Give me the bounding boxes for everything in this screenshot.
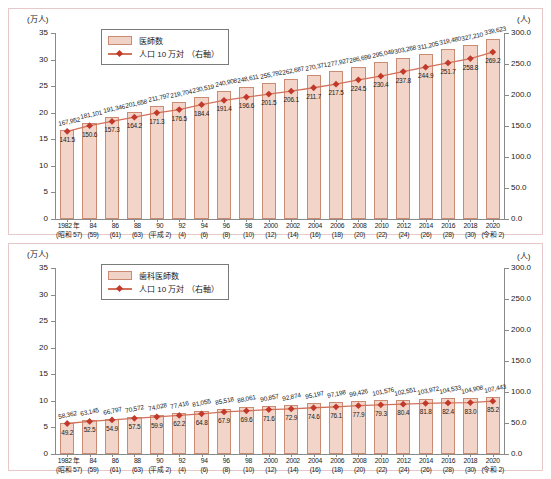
rate-value-label: 237.8 <box>396 77 411 84</box>
rate-value-label: 244.9 <box>418 72 433 79</box>
bar-slot[interactable]: 92,87472.9 <box>280 268 302 454</box>
bar[interactable]: 66,79754.9 <box>105 419 119 454</box>
bar-slot[interactable]: 85,51867.9 <box>213 268 235 454</box>
bar-slot[interactable]: 240,908191.4 <box>213 33 235 219</box>
bar[interactable]: 85,51867.9 <box>217 409 231 454</box>
bar-slot[interactable]: 230,519184.4 <box>190 33 212 219</box>
bar[interactable]: 211,797171.3 <box>150 106 164 219</box>
bar[interactable]: 311,205244.9 <box>419 54 433 219</box>
left-axis-tick-label: 30 <box>24 291 48 299</box>
bar-slot[interactable]: 311,205244.9 <box>415 33 437 219</box>
bar-slot[interactable]: 167,952141.5 <box>56 33 78 219</box>
bar[interactable]: 230,519184.4 <box>194 97 208 220</box>
bar-slot[interactable]: 277,927217.5 <box>325 33 347 219</box>
bar-slot[interactable]: 327,210258.8 <box>459 33 481 219</box>
bar[interactable]: 103,97281.8 <box>419 399 433 454</box>
bar-slot[interactable]: 97,19876.1 <box>325 268 347 454</box>
bar[interactable]: 339,623269.2 <box>486 39 500 219</box>
bar-slot[interactable]: 248,611196.6 <box>235 33 257 219</box>
x-axis-label: 2014(26) <box>415 221 437 239</box>
bar[interactable]: 70,57257.5 <box>127 417 141 455</box>
bar[interactable]: 191,346157.3 <box>105 117 119 219</box>
bar-slot[interactable]: 219,704176.5 <box>168 33 190 219</box>
bar-slot[interactable]: 70,57257.5 <box>123 268 145 454</box>
bar[interactable]: 107,44385.2 <box>486 397 500 454</box>
bar-slot[interactable]: 102,55180.4 <box>392 268 414 454</box>
bar[interactable]: 240,908191.4 <box>217 91 231 219</box>
bar[interactable]: 77,41662.2 <box>172 413 186 454</box>
bar[interactable]: 95,19774.6 <box>307 403 321 454</box>
bar[interactable]: 63,14552.5 <box>82 420 96 454</box>
bar[interactable]: 181,101150.6 <box>82 123 96 219</box>
bar-value-label: 167,952 <box>58 115 81 126</box>
bar-slot[interactable]: 270,371211.7 <box>302 33 324 219</box>
bar[interactable]: 81,05564.8 <box>194 411 208 454</box>
bar-slot[interactable]: 99,42677.9 <box>347 268 369 454</box>
bar[interactable]: 255,792201.5 <box>262 83 276 219</box>
bar[interactable]: 319,480251.7 <box>441 49 455 219</box>
x-axis-label-year: 2020 <box>486 457 500 464</box>
x-axis-label-era: (59) <box>82 465 104 474</box>
bar[interactable]: 201,658164.2 <box>127 112 141 219</box>
bar[interactable]: 88,06169.6 <box>239 407 253 454</box>
bar-slot[interactable]: 88,06169.6 <box>235 268 257 454</box>
bar[interactable]: 92,87472.9 <box>284 405 298 454</box>
bar-slot[interactable]: 201,658164.2 <box>123 33 145 219</box>
bar[interactable]: 219,704176.5 <box>172 102 186 219</box>
bar[interactable]: 327,210258.8 <box>463 45 477 219</box>
right-axis-tick-label: 150.0 <box>511 122 545 130</box>
bar[interactable]: 270,371211.7 <box>307 75 321 219</box>
bar[interactable]: 277,927217.5 <box>329 71 343 219</box>
bar[interactable]: 286,699224.5 <box>351 67 365 219</box>
bar-slot[interactable]: 95,19774.6 <box>302 268 324 454</box>
bar-slot[interactable]: 286,699224.5 <box>347 33 369 219</box>
left-axis-tick-label: 25 <box>24 82 48 90</box>
bar-slot[interactable]: 295,049230.4 <box>370 33 392 219</box>
rate-value-label: 230.4 <box>373 81 388 88</box>
bar-slot[interactable]: 255,792201.5 <box>258 33 280 219</box>
bar-slot[interactable]: 211,797171.3 <box>146 33 168 219</box>
bar-slot[interactable]: 58,36249.2 <box>56 268 78 454</box>
bar[interactable]: 102,55180.4 <box>396 400 410 454</box>
bar[interactable]: 90,85771.6 <box>262 406 276 454</box>
bar[interactable]: 101,57679.3 <box>374 400 388 454</box>
x-axis-label-era: (平成 2) <box>148 230 170 239</box>
right-axis-tick-label: 200.0 <box>511 91 545 99</box>
bar-slot[interactable]: 107,44385.2 <box>482 268 504 454</box>
bar-value-label: 181,101 <box>80 108 103 119</box>
right-axis-unit-label: (人) <box>517 13 530 24</box>
bar-slot[interactable]: 262,687206.1 <box>280 33 302 219</box>
bar[interactable]: 295,049230.4 <box>374 62 388 219</box>
bar-slot[interactable]: 319,480251.7 <box>437 33 459 219</box>
bar-slot[interactable]: 77,41662.2 <box>168 268 190 454</box>
bar-slot[interactable]: 303,268237.8 <box>392 33 414 219</box>
bar-slot[interactable]: 101,57679.3 <box>370 268 392 454</box>
bar-slot[interactable]: 104,53382.4 <box>437 268 459 454</box>
bar-slot[interactable]: 74,02859.9 <box>146 268 168 454</box>
x-axis-label-era: (63) <box>126 465 148 474</box>
bar[interactable]: 99,42677.9 <box>351 401 365 454</box>
bar-slot[interactable]: 339,623269.2 <box>482 33 504 219</box>
bar[interactable]: 303,268237.8 <box>396 58 410 219</box>
bar-slot[interactable]: 103,97281.8 <box>415 268 437 454</box>
bar[interactable]: 262,687206.1 <box>284 79 298 219</box>
bar[interactable]: 97,19876.1 <box>329 402 343 454</box>
x-axis-label-year: 2000 <box>264 222 278 229</box>
bar-slot[interactable]: 63,14552.5 <box>78 268 100 454</box>
bar-slot[interactable]: 104,90883.0 <box>459 268 481 454</box>
bar-value-label: 327,210 <box>461 31 484 42</box>
bar-slot[interactable]: 90,85771.6 <box>258 268 280 454</box>
bar-slot[interactable]: 181,101150.6 <box>78 33 100 219</box>
left-axis-tick-label: 20 <box>24 109 48 117</box>
bar-slot[interactable]: 191,346157.3 <box>101 33 123 219</box>
bar[interactable]: 74,02859.9 <box>150 415 164 454</box>
bar-slot[interactable]: 81,05564.8 <box>190 268 212 454</box>
bar-slot[interactable]: 66,79754.9 <box>101 268 123 454</box>
rate-value-label: 251.7 <box>440 68 455 75</box>
bar[interactable]: 104,90883.0 <box>463 398 477 454</box>
bar[interactable]: 58,36249.2 <box>60 423 74 454</box>
bar[interactable]: 104,53382.4 <box>441 398 455 454</box>
rate-value-label: 217.5 <box>328 89 343 96</box>
bar[interactable]: 248,611196.6 <box>239 87 253 219</box>
bar[interactable]: 167,952141.5 <box>60 130 74 219</box>
